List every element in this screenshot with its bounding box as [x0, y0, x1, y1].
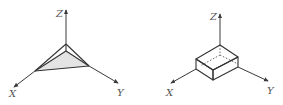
figure-pyramid: Z X Y [8, 8, 125, 99]
box-edges [196, 45, 238, 80]
x-axis-label: X [8, 88, 17, 99]
y-axis-label: Y [117, 87, 125, 98]
z-axis-label: Z [55, 8, 64, 19]
figure-box: Z X Y [165, 11, 275, 98]
diagram-canvas: Z X Y Z X Y [0, 0, 283, 105]
box-hidden-edges [200, 45, 238, 66]
x-axis [14, 71, 35, 87]
y-axis [238, 67, 268, 81]
y-axis [89, 66, 118, 83]
z-axis-label: Z [209, 11, 218, 22]
x-axis [171, 69, 196, 83]
x-axis-label: X [165, 87, 174, 98]
y-axis-label: Y [267, 85, 275, 96]
